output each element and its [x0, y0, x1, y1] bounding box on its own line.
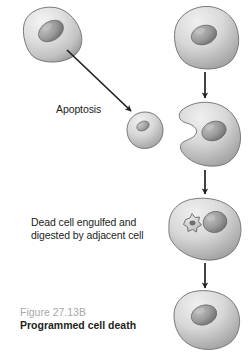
engulf-label-line2: digested by adjacent cell [31, 229, 144, 241]
figure-title: Programmed cell death [20, 319, 180, 332]
engulf-label-line1: Dead cell engulfed and [31, 216, 136, 228]
figure-number: Figure 27.13B [20, 306, 180, 319]
healthy-cell-top-left [23, 7, 81, 62]
figure-caption: Figure 27.13B Programmed cell death [20, 306, 180, 332]
healthy-cell-top-right [175, 6, 239, 69]
apoptotic-cell [127, 112, 163, 149]
engulf-label: Dead cell engulfed anddigested by adjace… [31, 216, 144, 241]
final-cell [174, 291, 240, 350]
engulfing-cell [179, 102, 240, 166]
apoptosis-label: Apoptosis [56, 103, 101, 116]
apoptosis-arrow [67, 50, 131, 111]
digested-remnant [190, 221, 196, 226]
digesting-cell [169, 198, 241, 260]
